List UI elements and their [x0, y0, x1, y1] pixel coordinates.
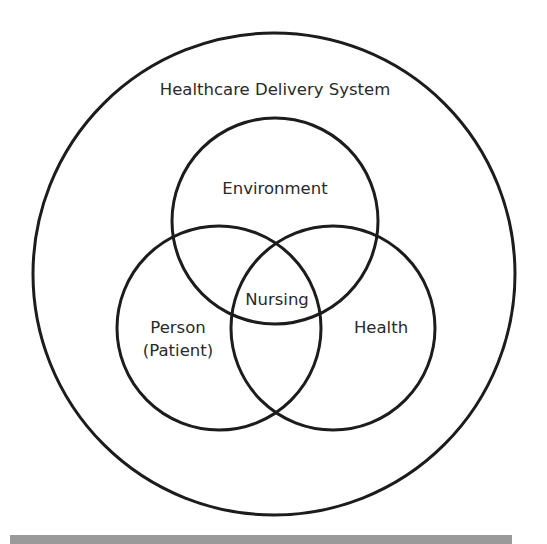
- label-person: Person: [150, 318, 205, 337]
- bottom-gray-bar: [10, 535, 512, 544]
- label-nursing: Nursing: [245, 290, 309, 309]
- label-patient: (Patient): [143, 341, 213, 360]
- label-environment: Environment: [222, 179, 328, 198]
- label-healthcare-delivery-system: Healthcare Delivery System: [160, 80, 390, 99]
- venn-diagram: Healthcare Delivery System Environment N…: [0, 0, 547, 544]
- circle-person: [117, 226, 321, 430]
- outer-circle-healthcare-delivery-system: [33, 33, 515, 515]
- label-health: Health: [354, 318, 408, 337]
